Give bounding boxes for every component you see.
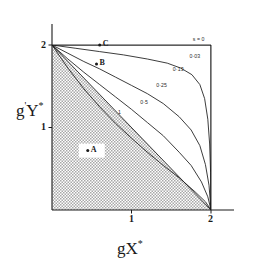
x-axis-title-gX: gX [117, 239, 138, 258]
curve-label-s-0: s = 0 [193, 37, 205, 42]
x-axis-title-star: * [138, 238, 143, 249]
curve-label-s-0-03: 0·03 [190, 54, 201, 59]
x-tick-label-1: 1 [129, 214, 134, 224]
y-axis-title-Y: Y [26, 101, 38, 120]
point-label-a: A [91, 146, 97, 154]
figure-container: g'Y* gX* 2 1 1 2 ABC10·50·250·130·03s = … [0, 0, 272, 264]
point-marker-b [95, 62, 98, 65]
y-axis-title-g: g [16, 101, 25, 120]
point-marker-a [86, 149, 89, 152]
y-tick-label-2: 2 [41, 40, 46, 50]
y-tick-label-1: 1 [41, 122, 46, 132]
x-axis-title: gX* [117, 239, 143, 257]
curve-label-s-0-25: 0·25 [156, 83, 167, 88]
curve-label-s-0-5: 0·5 [140, 100, 148, 105]
curve-label-s-1: 1 [118, 110, 121, 115]
point-marker-c [98, 44, 101, 47]
y-axis-title: g'Y* [16, 101, 44, 119]
point-label-c: C [103, 40, 109, 48]
x-tick-label-2: 2 [208, 214, 213, 224]
point-label-b: B [100, 59, 105, 67]
y-axis-title-star: * [39, 100, 44, 111]
curve-label-s-0-13: 0·13 [173, 67, 184, 72]
